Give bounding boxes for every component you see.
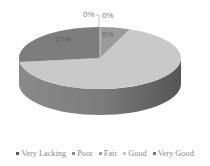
legend-label: Good (128, 149, 146, 158)
pie-chart: 0% 0% 6% 27% 67% (0, 0, 210, 140)
legend-marker-icon (99, 152, 102, 155)
legend-item-very-lacking: Very Lacking (16, 149, 66, 158)
legend-marker-icon (153, 152, 156, 155)
legend-item-fair: Fair (99, 149, 117, 158)
label-leader-line (96, 15, 99, 27)
label-good: 67% (137, 84, 153, 92)
legend-marker-icon (123, 152, 126, 155)
legend-label: Very Lacking (21, 149, 66, 158)
slice-very-good (19, 27, 100, 62)
label-very-good: 27% (55, 36, 71, 44)
legend-item-very-good: Very Good (153, 149, 194, 158)
legend-label: Fair (104, 149, 117, 158)
label-very-lacking: 0% (83, 11, 95, 19)
legend-label: Very Good (158, 149, 194, 158)
label-fair: 6% (102, 31, 114, 39)
chart-legend: Very Lacking Poor Fair Good Very Good (0, 149, 210, 158)
legend-item-poor: Poor (72, 149, 93, 158)
legend-label: Poor (77, 149, 93, 158)
legend-marker-icon (72, 152, 75, 155)
label-poor: 0% (102, 12, 114, 20)
legend-marker-icon (16, 152, 19, 155)
legend-item-good: Good (123, 149, 146, 158)
pie-graphic (0, 0, 210, 140)
